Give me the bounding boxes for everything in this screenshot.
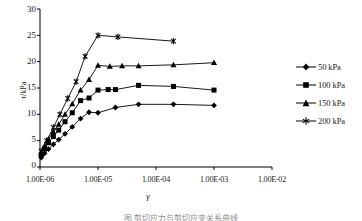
legend-label: 100 kPa xyxy=(318,80,345,90)
legend-label: 150 kPa xyxy=(318,98,345,108)
x-axis-label: γ xyxy=(128,191,168,201)
y-tick-label: 0 xyxy=(14,161,36,170)
legend-item-100kpa[interactable]: 100 kPa xyxy=(296,76,362,94)
y-tick-label: 25 xyxy=(14,31,36,40)
x-tick-label: 1.00E-02 xyxy=(245,175,299,184)
figure-caption: 图 剪切应力与剪切应变关系曲线 xyxy=(0,212,362,221)
data-series-group xyxy=(38,32,217,160)
legend-item-50kpa[interactable]: 50 kPa xyxy=(296,58,362,76)
y-tick-label: 5 xyxy=(14,135,36,144)
y-tick-label: 20 xyxy=(14,57,36,66)
series-200-kpa xyxy=(39,32,176,154)
legend-item-150kpa[interactable]: 150 kPa xyxy=(296,94,362,112)
legend-label: 200 kPa xyxy=(318,116,345,126)
figure-container: τ/kPa 30 25 20 15 10 5 0 1.00E-06 1.00E-… xyxy=(0,0,362,221)
x-tick-label: 1.00E-05 xyxy=(71,175,125,184)
series-150-kpa xyxy=(38,60,217,156)
legend-item-200kpa[interactable]: 200 kPa xyxy=(296,112,362,130)
legend-label: 50 kPa xyxy=(318,62,341,72)
y-tick-label: 15 xyxy=(14,83,36,92)
x-tick-label: 1.00E-06 xyxy=(13,175,67,184)
x-tick-label: 1.00E-04 xyxy=(129,175,183,184)
legend-marker-diamond-icon xyxy=(296,61,316,73)
chart-legend: 50 kPa 100 kPa 150 kPa xyxy=(296,58,362,130)
legend-marker-square-icon xyxy=(296,79,316,91)
y-tick-label: 30 xyxy=(14,5,36,14)
x-tick-label: 1.00E-03 xyxy=(187,175,241,184)
y-tick-label: 10 xyxy=(14,109,36,118)
series-100-kpa xyxy=(39,83,217,158)
legend-marker-triangle-icon xyxy=(296,97,316,109)
legend-marker-asterisk-icon xyxy=(296,115,316,127)
series-50-kpa xyxy=(38,101,217,160)
